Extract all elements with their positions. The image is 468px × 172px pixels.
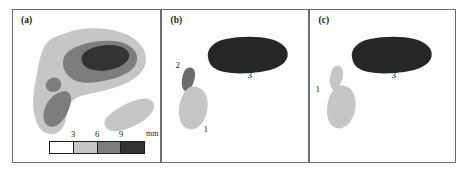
legend-tick-9: 9 — [119, 128, 123, 140]
legend-unit-label: mm — [146, 128, 158, 140]
panel-b-blob-plot — [162, 9, 309, 163]
legend-swatch-2 — [98, 142, 122, 153]
blob-label-1: 1 — [204, 125, 209, 134]
figure-three-panel: (a) 3 6 9 mm (b) 2 — [0, 0, 468, 172]
panel-a-label: (a) — [21, 15, 32, 25]
blob-3-shape — [351, 37, 431, 74]
legend-swatch-1 — [74, 142, 98, 153]
blob-1-lower-shape — [326, 86, 355, 129]
panel-c: (c) 1 3 — [310, 9, 457, 163]
blob-label-3: 3 — [392, 71, 397, 80]
blob-label-3: 3 — [248, 71, 253, 80]
legend-tick-3: 3 — [71, 128, 75, 140]
blob-label-1: 1 — [316, 85, 321, 94]
panel-b: (b) 2 1 3 — [162, 9, 309, 163]
blob-label-2: 2 — [176, 61, 181, 70]
blob-3-shape — [207, 37, 287, 74]
legend-tick-row: 3 6 9 mm — [49, 128, 145, 140]
panel-c-label: (c) — [319, 15, 330, 25]
legend-tick-6: 6 — [95, 128, 99, 140]
legend-colorbar: 3 6 9 mm — [49, 128, 145, 154]
contour-level-3-southeast — [105, 98, 154, 131]
panel-b-label: (b) — [171, 15, 183, 25]
legend-swatch-3 — [121, 142, 144, 153]
legend-swatch-0 — [50, 142, 74, 153]
panel-a: (a) 3 6 9 mm — [12, 9, 160, 163]
panel-c-blob-plot — [310, 9, 457, 163]
blob-1-shape — [178, 87, 207, 130]
legend-swatch-bar — [49, 141, 145, 154]
